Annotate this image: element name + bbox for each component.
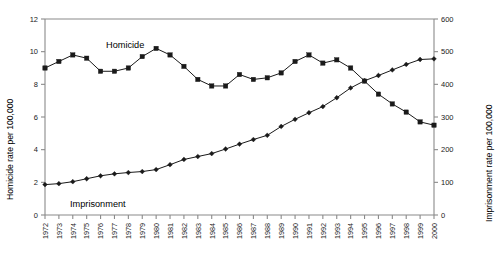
right-tick-label: 500 (441, 47, 454, 56)
marker-homicide (43, 66, 47, 70)
marker-homicide (196, 77, 200, 81)
left-tick-label: 0 (34, 211, 38, 220)
left-tick-label: 4 (34, 145, 38, 154)
x-tick-label: 1998 (402, 223, 411, 239)
x-tick-label: 1997 (388, 223, 397, 239)
left-axis-title: Homicide rate per 100,000 (5, 99, 15, 200)
right-tick-label: 300 (441, 113, 454, 122)
x-tick-label: 1994 (346, 223, 355, 239)
right-axis-ticks: 0100200300400500600 (434, 15, 454, 220)
x-tick-label: 1972 (41, 223, 50, 239)
x-tick-label: 1974 (69, 223, 78, 239)
marker-homicide (418, 120, 422, 124)
marker-imprisonment (154, 167, 159, 172)
marker-imprisonment (182, 157, 187, 162)
axes-group (45, 19, 434, 215)
x-tick-label: 1987 (249, 223, 258, 239)
left-axis-ticks: 024681012 (30, 15, 45, 220)
right-tick-label: 400 (441, 80, 454, 89)
x-tick-label: 1984 (208, 223, 217, 239)
x-tick-label: 1980 (152, 223, 161, 239)
right-axis-title: Imprisonment rate per 100,000 (484, 104, 494, 222)
x-tick-label: 1989 (277, 223, 286, 239)
x-tick-label: 1995 (360, 223, 369, 239)
marker-imprisonment (307, 110, 312, 115)
x-tick-label: 1973 (55, 223, 64, 239)
marker-imprisonment (209, 151, 214, 156)
x-tick-label: 1996 (374, 223, 383, 239)
x-tick-label: 1999 (416, 223, 425, 239)
marker-imprisonment (376, 73, 381, 78)
marker-imprisonment (432, 56, 437, 61)
marker-homicide (321, 61, 325, 65)
marker-imprisonment (320, 104, 325, 109)
marker-homicide (265, 76, 269, 80)
marker-homicide (376, 92, 380, 96)
marker-imprisonment (126, 170, 131, 175)
marker-homicide (98, 69, 102, 73)
marker-imprisonment (404, 62, 409, 67)
annotation-homicide: Homicide (106, 40, 144, 50)
x-tick-label: 1993 (333, 223, 342, 239)
right-tick-label: 200 (441, 145, 454, 154)
x-tick-label: 1988 (263, 223, 272, 239)
marker-homicide (84, 56, 88, 60)
x-tick-label: 1991 (305, 223, 314, 239)
marker-homicide (335, 58, 339, 62)
x-tick-label: 2000 (430, 223, 439, 239)
marker-homicide (112, 69, 116, 73)
marker-imprisonment (84, 176, 89, 181)
marker-homicide (293, 59, 297, 63)
marker-homicide (154, 46, 158, 50)
marker-imprisonment (168, 162, 173, 167)
marker-imprisonment (43, 182, 48, 187)
series-line-imprisonment (45, 59, 434, 185)
left-tick-label: 2 (34, 178, 38, 187)
left-tick-label: 10 (30, 47, 38, 56)
x-tick-label: 1975 (82, 223, 91, 239)
x-tick-label: 1985 (221, 223, 230, 239)
right-tick-label: 600 (441, 15, 454, 24)
x-tick-label: 1979 (138, 223, 147, 239)
marker-homicide (404, 110, 408, 114)
x-tick-label: 1977 (110, 223, 119, 239)
marker-homicide (251, 77, 255, 81)
series-group (43, 46, 437, 187)
marker-homicide (348, 66, 352, 70)
marker-homicide (390, 102, 394, 106)
annotation-imprisonment: Imprisonment (70, 199, 126, 209)
marker-homicide (210, 84, 214, 88)
marker-imprisonment (56, 181, 61, 186)
marker-imprisonment (390, 68, 395, 73)
right-tick-label: 100 (441, 178, 454, 187)
marker-homicide (182, 64, 186, 68)
marker-imprisonment (98, 173, 103, 178)
marker-imprisonment (265, 133, 270, 138)
right-tick-label: 0 (441, 211, 445, 220)
x-tick-label: 1982 (180, 223, 189, 239)
marker-homicide (168, 53, 172, 57)
marker-homicide (71, 53, 75, 57)
marker-imprisonment (112, 171, 117, 176)
marker-homicide (57, 59, 61, 63)
chart-container: 024681012 0100200300400500600 1972197319… (0, 0, 500, 270)
marker-imprisonment (70, 179, 75, 184)
marker-imprisonment (195, 154, 200, 159)
marker-imprisonment (237, 142, 242, 147)
x-tick-label: 1992 (319, 223, 328, 239)
marker-imprisonment (223, 147, 228, 152)
left-tick-label: 8 (34, 80, 38, 89)
marker-imprisonment (251, 137, 256, 142)
marker-homicide (237, 72, 241, 76)
dual-axis-line-chart: 024681012 0100200300400500600 1972197319… (0, 0, 500, 270)
marker-imprisonment (418, 57, 423, 62)
x-tick-label: 1981 (166, 223, 175, 239)
marker-imprisonment (279, 124, 284, 129)
marker-homicide (279, 71, 283, 75)
x-tick-label: 1976 (96, 223, 105, 239)
x-tick-label: 1990 (291, 223, 300, 239)
series-line-homicide (45, 48, 434, 125)
marker-homicide (140, 54, 144, 58)
left-tick-label: 12 (30, 15, 38, 24)
x-tick-label: 1978 (124, 223, 133, 239)
